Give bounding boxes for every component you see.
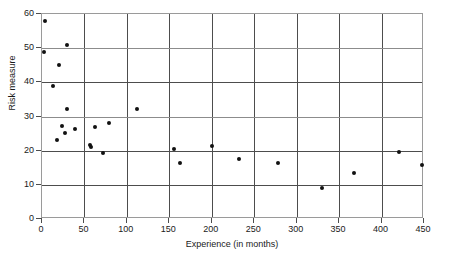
gridline-vertical: [212, 14, 213, 217]
gridline-vertical: [297, 14, 298, 217]
data-point: [65, 43, 69, 47]
y-axis-tick-label: 40: [14, 76, 34, 86]
y-axis-tick: [36, 13, 41, 14]
y-axis-tick-label: 50: [14, 42, 34, 52]
x-axis-tick: [338, 218, 339, 223]
gridline-horizontal: [42, 185, 422, 186]
x-axis-tick: [41, 218, 42, 223]
data-point: [101, 151, 105, 155]
data-point: [107, 121, 111, 125]
x-axis-tick-label: 0: [38, 224, 43, 234]
x-axis-tick-label: 350: [331, 224, 346, 234]
data-point: [237, 157, 241, 161]
data-point: [55, 138, 59, 142]
y-axis-tick-label: 0: [14, 213, 34, 223]
data-point: [57, 63, 61, 67]
data-point: [397, 150, 401, 154]
data-point: [178, 161, 182, 165]
y-axis-tick-label: 60: [14, 8, 34, 18]
data-point: [135, 107, 139, 111]
x-axis-tick-label: 100: [118, 224, 133, 234]
y-axis-tick: [36, 116, 41, 117]
x-axis-tick: [253, 218, 254, 223]
y-axis-tick: [36, 150, 41, 151]
data-point: [93, 125, 97, 129]
data-point: [420, 163, 424, 167]
x-axis-tick: [211, 218, 212, 223]
gridline-vertical: [84, 14, 85, 217]
x-axis-tick-label: 150: [161, 224, 176, 234]
gridline-horizontal: [42, 82, 422, 83]
x-axis-tick-label: 250: [246, 224, 261, 234]
data-point: [320, 186, 324, 190]
x-axis-tick-label: 400: [373, 224, 388, 234]
x-axis-tick: [381, 218, 382, 223]
scatter-chart: Risk measure Experience (in months) 0501…: [0, 0, 450, 267]
gridline-vertical: [127, 14, 128, 217]
data-point: [89, 145, 93, 149]
data-point: [60, 124, 64, 128]
data-point: [352, 171, 356, 175]
gridline-vertical: [254, 14, 255, 217]
data-point: [210, 144, 214, 148]
y-axis-tick: [36, 47, 41, 48]
y-axis-tick-label: 10: [14, 179, 34, 189]
x-axis-tick: [168, 218, 169, 223]
data-point: [276, 161, 280, 165]
gridline-vertical: [339, 14, 340, 217]
data-point: [42, 50, 46, 54]
data-point: [73, 127, 77, 131]
x-axis-tick: [83, 218, 84, 223]
x-axis-tick-label: 200: [203, 224, 218, 234]
y-axis-tick: [36, 218, 41, 219]
plot-area: [41, 13, 423, 218]
gridline-vertical: [169, 14, 170, 217]
x-axis-tick-label: 300: [288, 224, 303, 234]
gridline-horizontal: [42, 48, 422, 49]
y-axis-tick-label: 20: [14, 145, 34, 155]
y-axis-tick: [36, 81, 41, 82]
gridline-horizontal: [42, 117, 422, 118]
y-axis-tick-label: 30: [14, 111, 34, 121]
gridline-horizontal: [42, 151, 422, 152]
x-axis-tick: [423, 218, 424, 223]
x-axis-tick: [296, 218, 297, 223]
x-axis-tick-label: 50: [78, 224, 88, 234]
x-axis-label: Experience (in months): [41, 239, 423, 249]
data-point: [51, 84, 55, 88]
data-point: [65, 107, 69, 111]
x-axis-tick-label: 450: [415, 224, 430, 234]
data-point: [43, 19, 47, 23]
x-axis-tick: [126, 218, 127, 223]
y-axis-tick: [36, 184, 41, 185]
data-point: [63, 131, 67, 135]
gridline-vertical: [382, 14, 383, 217]
